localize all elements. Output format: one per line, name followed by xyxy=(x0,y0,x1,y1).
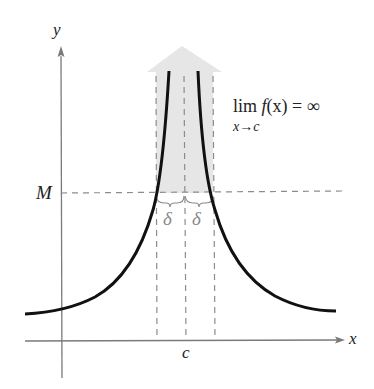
x-axis-label: x xyxy=(349,330,357,347)
y-axis xyxy=(61,56,62,378)
limit-lim: lim xyxy=(233,96,257,116)
delta-right-label: δ xyxy=(192,209,201,228)
delta-left-label: δ xyxy=(163,209,172,228)
M-label: M xyxy=(36,183,52,202)
y-axis-arrowhead-icon xyxy=(58,46,65,57)
limit-subscript: x→c xyxy=(233,120,259,134)
limit-expression: lim f(x) = ∞ xyxy=(233,97,320,115)
y-axis-label: y xyxy=(53,21,61,38)
brace-right xyxy=(185,196,213,207)
shaded-region-arrow xyxy=(147,46,222,193)
brace-left xyxy=(156,196,184,207)
limit-rest: (x) = ∞ xyxy=(267,96,320,116)
limit-diagram xyxy=(0,0,374,389)
x-axis xyxy=(25,340,337,341)
c-label: c xyxy=(182,344,190,361)
